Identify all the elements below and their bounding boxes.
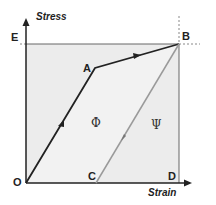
point-d-label: D — [168, 170, 176, 182]
y-axis-arrow-icon — [23, 18, 30, 26]
x-axis-arrow-icon — [184, 180, 192, 187]
point-e-label: E — [11, 31, 18, 43]
stress-strain-diagram: Stress Strain E B A O C D Φ Ψ — [0, 0, 216, 205]
point-o-label: O — [13, 176, 22, 188]
point-b-label: B — [182, 30, 190, 42]
point-c-label: C — [88, 170, 96, 182]
psi-region-label: Ψ — [151, 118, 162, 132]
x-axis-label: Strain — [148, 187, 176, 198]
y-axis-label: Stress — [36, 11, 67, 22]
phi-region-label: Φ — [91, 116, 101, 130]
point-a-label: A — [83, 62, 91, 74]
